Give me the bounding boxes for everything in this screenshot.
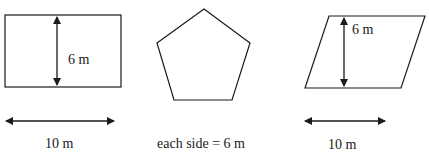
rectangle-base-label: 10 m: [45, 137, 73, 151]
pentagon-side-label: each side = 6 m: [157, 137, 245, 151]
parallelogram-height-label: 6 m: [352, 23, 373, 37]
parallelogram-base-label: 10 m: [328, 138, 356, 152]
rectangle-height-label: 6 m: [68, 53, 89, 67]
pentagon-shape: [157, 9, 250, 100]
shapes-diagram: 6 m 10 m each side = 6 m 6 m 10 m: [0, 0, 429, 158]
rectangle-shape: [5, 15, 121, 87]
